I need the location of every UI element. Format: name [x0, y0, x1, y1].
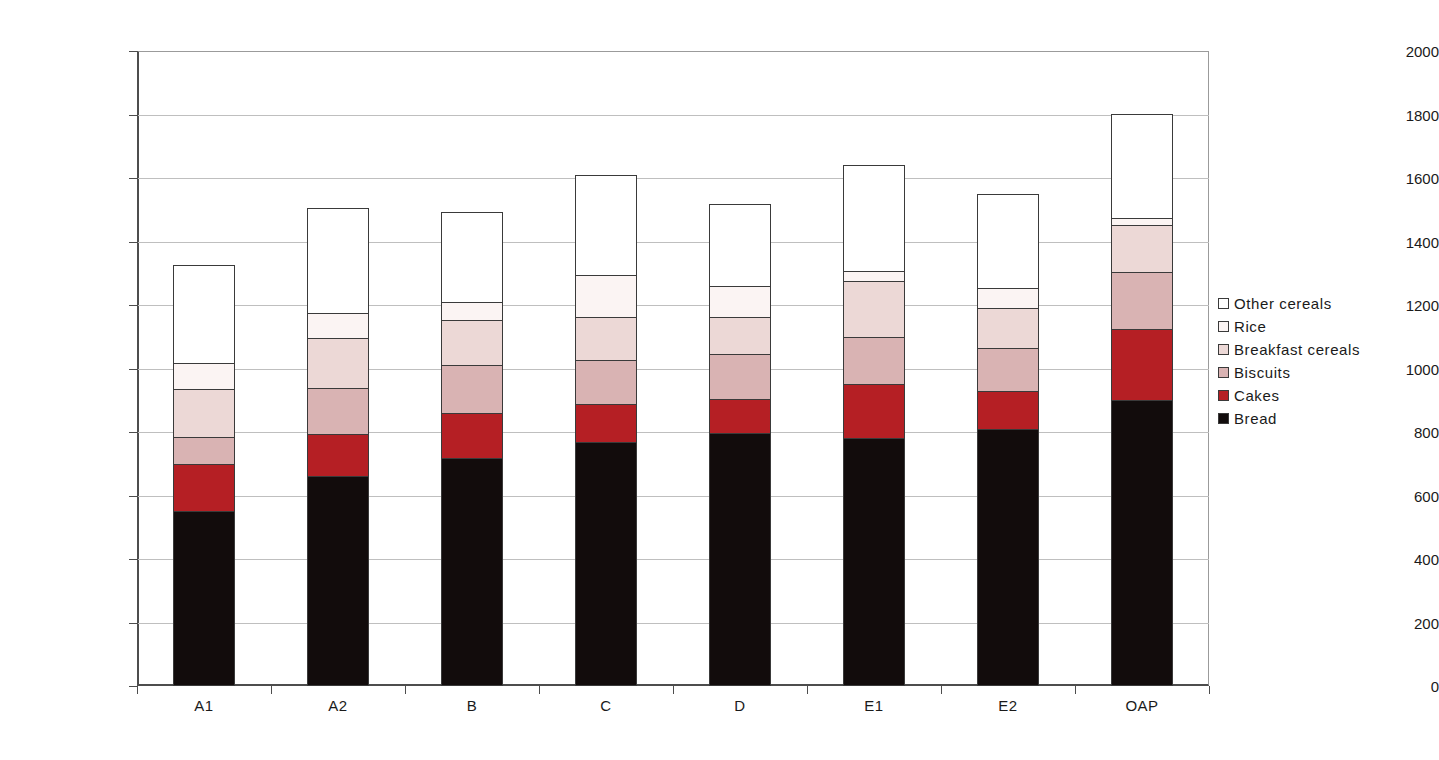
- bar-segment-biscuits[interactable]: [843, 337, 905, 385]
- legend: Other cerealsRiceBreakfast cerealsBiscui…: [1218, 292, 1360, 430]
- bar-a1[interactable]: [173, 51, 235, 686]
- bar-segment-other-cereals[interactable]: [1111, 114, 1173, 219]
- bar-segment-cakes[interactable]: [441, 413, 503, 459]
- bar-segment-breakfast-cereals[interactable]: [1111, 225, 1173, 273]
- bar-segment-biscuits[interactable]: [1111, 272, 1173, 330]
- bar-segment-breakfast-cereals[interactable]: [843, 281, 905, 338]
- bar-segment-bread[interactable]: [709, 433, 771, 686]
- bar-segment-bread[interactable]: [307, 476, 369, 686]
- legend-item-bread[interactable]: Bread: [1218, 407, 1360, 430]
- bar-e1[interactable]: [843, 51, 905, 686]
- x-axis-label-b: B: [412, 697, 532, 714]
- bar-segment-bread[interactable]: [441, 458, 503, 686]
- x-axis-label-a2: A2: [278, 697, 398, 714]
- bar-segment-rice[interactable]: [307, 313, 369, 339]
- legend-item-other-cereals[interactable]: Other cereals: [1218, 292, 1360, 315]
- stacked-bar-chart: 0200400600800100012001400160018002000 A1…: [0, 0, 1439, 760]
- x-axis-label-d: D: [680, 697, 800, 714]
- bar-segment-other-cereals[interactable]: [575, 175, 637, 275]
- legend-item-cakes[interactable]: Cakes: [1218, 384, 1360, 407]
- bar-segment-cakes[interactable]: [1111, 329, 1173, 401]
- y-axis-tick-label: 2000: [1313, 44, 1439, 59]
- legend-swatch-icon: [1218, 413, 1229, 424]
- x-axis-tick-mark: [539, 686, 540, 694]
- bar-segment-other-cereals[interactable]: [709, 204, 771, 287]
- legend-item-rice[interactable]: Rice: [1218, 315, 1360, 338]
- x-axis-tick-mark: [271, 686, 272, 694]
- bar-segment-other-cereals[interactable]: [173, 265, 235, 364]
- bar-segment-cakes[interactable]: [307, 434, 369, 477]
- x-axis-label-c: C: [546, 697, 666, 714]
- legend-item-biscuits[interactable]: Biscuits: [1218, 361, 1360, 384]
- legend-swatch-icon: [1218, 367, 1229, 378]
- legend-swatch-icon: [1218, 298, 1229, 309]
- bar-segment-bread[interactable]: [173, 511, 235, 686]
- y-axis-tick-label: 1800: [1313, 107, 1439, 122]
- bar-segment-bread[interactable]: [1111, 400, 1173, 686]
- y-axis-tick-label: 600: [1313, 488, 1439, 503]
- bar-b[interactable]: [441, 51, 503, 686]
- legend-item-label: Biscuits: [1234, 364, 1290, 381]
- bar-segment-breakfast-cereals[interactable]: [173, 389, 235, 438]
- bar-segment-rice[interactable]: [843, 271, 905, 282]
- x-axis-tick-mark: [1075, 686, 1076, 694]
- bar-segment-rice[interactable]: [977, 288, 1039, 309]
- bar-segment-cakes[interactable]: [575, 404, 637, 444]
- legend-item-label: Cakes: [1234, 387, 1280, 404]
- x-axis-tick-mark: [673, 686, 674, 694]
- bar-segment-biscuits[interactable]: [709, 354, 771, 400]
- bar-segment-cakes[interactable]: [709, 399, 771, 434]
- legend-swatch-icon: [1218, 321, 1229, 332]
- bar-segment-biscuits[interactable]: [441, 365, 503, 414]
- bar-segment-bread[interactable]: [575, 442, 637, 686]
- bar-segment-other-cereals[interactable]: [843, 165, 905, 272]
- bar-segment-other-cereals[interactable]: [441, 212, 503, 303]
- bar-series-layer: [137, 51, 1209, 686]
- bar-oap[interactable]: [1111, 51, 1173, 686]
- bar-segment-breakfast-cereals[interactable]: [441, 320, 503, 366]
- bar-segment-biscuits[interactable]: [575, 360, 637, 405]
- bar-segment-biscuits[interactable]: [977, 348, 1039, 392]
- legend-swatch-icon: [1218, 344, 1229, 355]
- bar-segment-breakfast-cereals[interactable]: [307, 338, 369, 389]
- bar-segment-rice[interactable]: [441, 302, 503, 321]
- bar-segment-biscuits[interactable]: [307, 388, 369, 435]
- x-axis-label-e2: E2: [948, 697, 1068, 714]
- y-axis-tick-label: 400: [1313, 552, 1439, 567]
- bar-segment-bread[interactable]: [843, 438, 905, 686]
- x-axis-label-oap: OAP: [1082, 697, 1202, 714]
- bar-segment-rice[interactable]: [1111, 218, 1173, 226]
- legend-item-breakfast-cereals[interactable]: Breakfast cereals: [1218, 338, 1360, 361]
- bar-a2[interactable]: [307, 51, 369, 686]
- bar-d[interactable]: [709, 51, 771, 686]
- x-axis-label-a1: A1: [144, 697, 264, 714]
- bar-segment-rice[interactable]: [575, 275, 637, 318]
- bar-segment-breakfast-cereals[interactable]: [977, 308, 1039, 349]
- legend-item-label: Breakfast cereals: [1234, 341, 1360, 358]
- x-axis-tick-mark: [137, 686, 138, 694]
- x-axis-label-e1: E1: [814, 697, 934, 714]
- legend-item-label: Rice: [1234, 318, 1266, 335]
- bar-segment-cakes[interactable]: [977, 391, 1039, 430]
- bar-segment-bread[interactable]: [977, 429, 1039, 686]
- legend-swatch-icon: [1218, 390, 1229, 401]
- legend-item-label: Other cereals: [1234, 295, 1332, 312]
- x-axis-tick-mark: [941, 686, 942, 694]
- bar-c[interactable]: [575, 51, 637, 686]
- bar-segment-breakfast-cereals[interactable]: [709, 317, 771, 355]
- bar-segment-cakes[interactable]: [843, 384, 905, 440]
- y-axis-tick-label: 200: [1313, 615, 1439, 630]
- bar-segment-breakfast-cereals[interactable]: [575, 317, 637, 361]
- bar-segment-other-cereals[interactable]: [977, 194, 1039, 289]
- x-axis-tick-mark: [807, 686, 808, 694]
- legend-item-label: Bread: [1234, 410, 1277, 427]
- bar-segment-cakes[interactable]: [173, 464, 235, 512]
- x-axis-tick-mark: [1209, 686, 1210, 694]
- bar-segment-biscuits[interactable]: [173, 437, 235, 465]
- x-axis-tick-mark: [405, 686, 406, 694]
- bar-segment-rice[interactable]: [173, 363, 235, 390]
- bar-e2[interactable]: [977, 51, 1039, 686]
- bar-segment-rice[interactable]: [709, 286, 771, 318]
- y-axis-tick-label: 1600: [1313, 171, 1439, 186]
- bar-segment-other-cereals[interactable]: [307, 208, 369, 314]
